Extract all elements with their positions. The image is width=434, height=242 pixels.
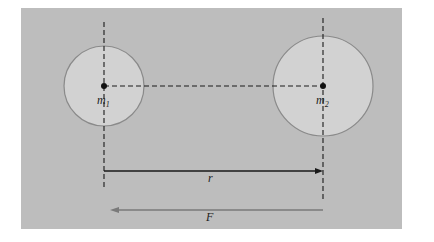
gravity-diagram: m1 m2 r F [0,0,434,242]
distance-label: r [208,171,213,185]
mass-2-center-dot [320,83,326,89]
force-label: F [205,210,214,224]
mass-1-center-dot [101,83,107,89]
